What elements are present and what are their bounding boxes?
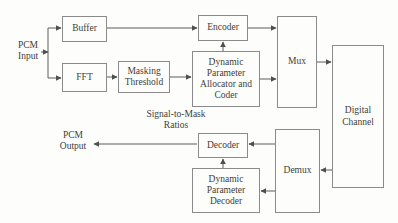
box-mux: Mux [277,16,317,108]
label-signal-to-mask-ratios: Signal-to-Mask Ratios [136,109,216,131]
box-dynamic-parameter-allocator: Dynamic Parameter Allocator and Coder [192,51,260,107]
box-decoder: Decoder [198,133,248,158]
box-masking-threshold: Masking Threshold [118,61,170,93]
label-pcm-input: PCM Input [6,40,50,62]
box-encoder: Encoder [198,15,248,41]
box-dynamic-parameter-decoder: Dynamic Parameter Decoder [192,168,260,213]
box-buffer: Buffer [62,16,107,42]
box-fft: FFT [62,63,107,92]
box-demux: Demux [275,129,320,213]
label-pcm-output: PCM Output [51,130,95,152]
block-diagram: Buffer FFT Masking Threshold Encoder Dyn… [0,0,398,223]
box-digital-channel: Digital Channel [332,45,384,188]
